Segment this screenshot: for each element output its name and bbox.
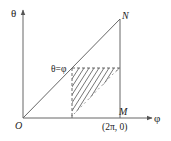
point-m-coord-label: (2π, 0) [102, 122, 127, 133]
diagram-canvas: θ φ N M O (2π, 0) θ=φ [0, 0, 171, 141]
point-n-label: N [121, 10, 130, 21]
theta-axis-label: θ [11, 7, 16, 19]
phi-axis-label: φ [154, 112, 160, 124]
dashed-hypotenuse [74, 70, 117, 114]
hatched-region [70, 68, 119, 124]
origin-label: O [15, 120, 22, 131]
diagonal-annotation: θ=φ [51, 64, 67, 74]
point-m-label: M [118, 106, 128, 117]
